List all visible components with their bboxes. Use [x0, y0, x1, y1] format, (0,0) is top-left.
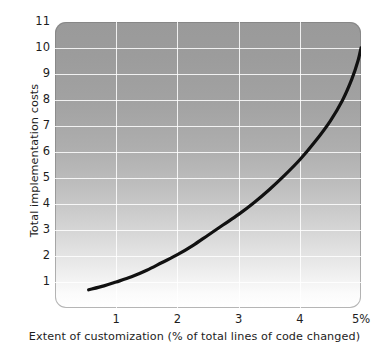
y-tick-label: 1	[22, 276, 50, 288]
cost-curve	[55, 22, 361, 308]
y-tick-label: 8	[22, 94, 50, 106]
x-tick-label: 1	[96, 312, 136, 326]
x-tick-label: 4	[280, 312, 320, 326]
y-tick-label: 9	[22, 68, 50, 80]
y-tick-label: 3	[22, 224, 50, 236]
y-tick-label: 6	[22, 146, 50, 158]
x-tick-label: 3	[219, 312, 259, 326]
x-axis-tick-labels: 12345%	[55, 312, 361, 328]
y-axis-tick-labels: 1234567891011	[22, 22, 50, 308]
x-tick-label: 5%	[341, 312, 381, 326]
y-tick-label: 11	[22, 16, 50, 28]
y-tick-label: 5	[22, 172, 50, 184]
y-tick-label: 4	[22, 198, 50, 210]
x-tick-label: 2	[157, 312, 197, 326]
x-axis-title: Extent of customization (% of total line…	[0, 330, 389, 343]
y-tick-label: 2	[22, 250, 50, 262]
plot-area	[55, 22, 361, 308]
y-tick-label: 7	[22, 120, 50, 132]
y-tick-label: 10	[22, 42, 50, 54]
chart-figure: Total implementation costs 1234567891011…	[0, 0, 389, 362]
